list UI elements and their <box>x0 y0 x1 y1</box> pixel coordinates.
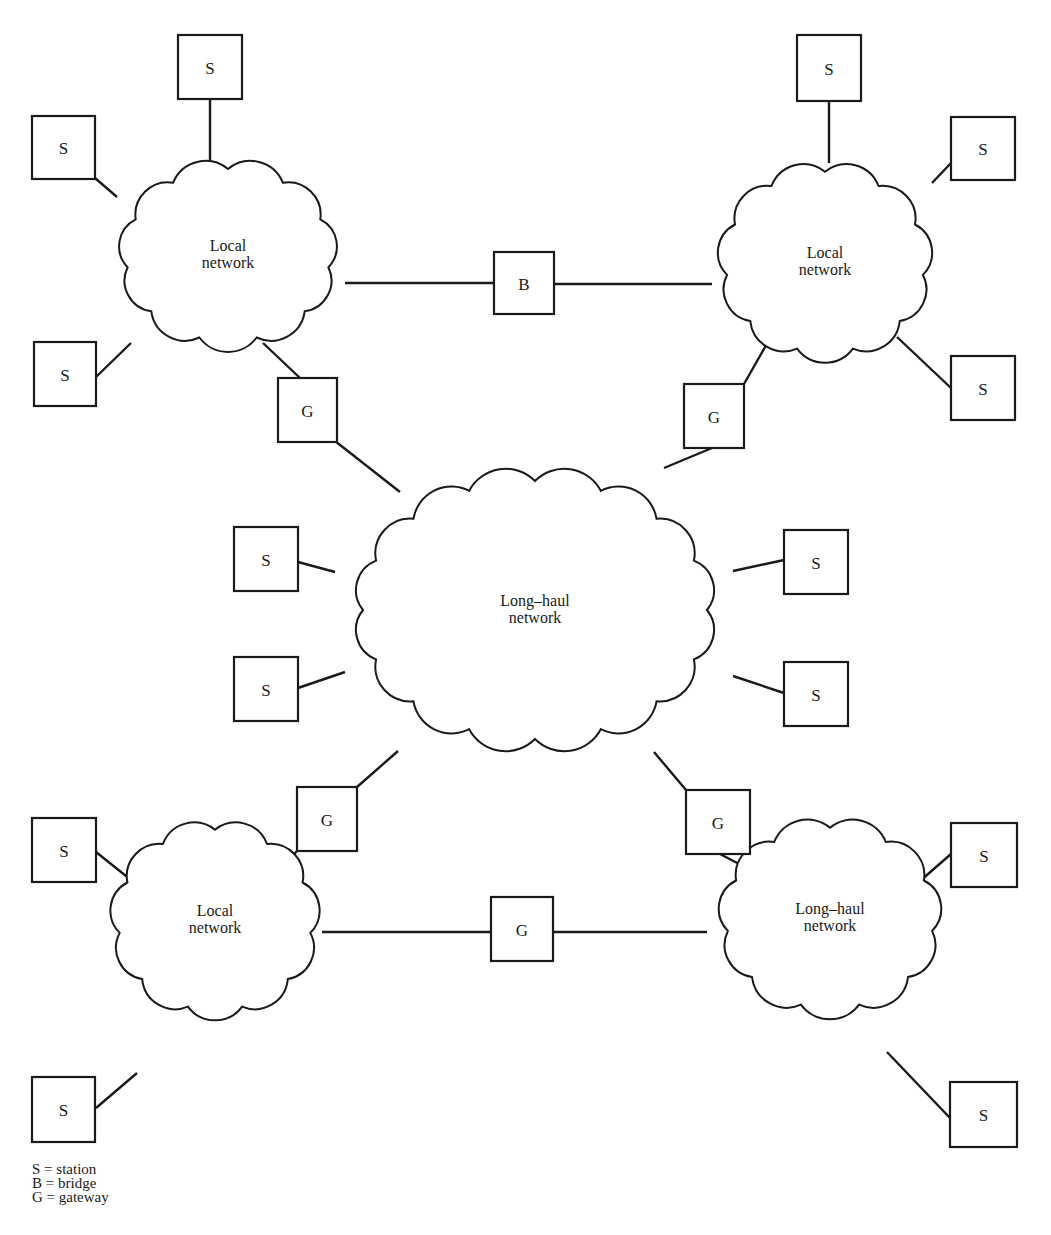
cloud-label: network <box>799 261 851 278</box>
gateway-node: G <box>297 787 357 851</box>
connection-line <box>654 752 686 790</box>
cloud-label: Local <box>197 902 234 919</box>
cloud-longhaul-br: Long–haulnetwork <box>719 820 941 1020</box>
connection-line <box>357 751 398 787</box>
connection-line <box>298 562 335 572</box>
node-label: S <box>979 847 988 866</box>
node-label: B <box>518 275 529 294</box>
legend-item-gateway: G = gateway <box>32 1190 109 1204</box>
cloud-local-tl: Localnetwork <box>119 161 337 352</box>
connection-line <box>263 343 300 378</box>
connection-line <box>932 163 951 183</box>
station-node: S <box>784 530 848 594</box>
node-label: S <box>811 686 820 705</box>
connection-line <box>887 1052 950 1118</box>
cloud-local-tr: Localnetwork <box>718 164 932 363</box>
connection-line <box>664 448 712 468</box>
station-node: S <box>784 662 848 726</box>
connection-line <box>335 441 400 492</box>
bridge-node: B <box>494 252 554 314</box>
legend: S = station B = bridge G = gateway <box>32 1162 109 1204</box>
connection-line <box>897 337 951 388</box>
node-label: S <box>60 366 69 385</box>
station-node: S <box>950 1082 1017 1147</box>
station-node: S <box>951 117 1015 180</box>
station-node: S <box>32 116 95 179</box>
cloud-longhaul-center: Long–haulnetwork <box>356 469 714 751</box>
gateway-node: G <box>684 384 744 448</box>
cloud-label: Long–haul <box>795 900 865 918</box>
cloud-label: network <box>804 917 856 934</box>
node-label: G <box>321 811 333 830</box>
node-label: G <box>712 814 724 833</box>
station-node: S <box>234 527 298 591</box>
station-node: S <box>951 823 1017 887</box>
network-diagram: LocalnetworkLocalnetworkLong–haulnetwork… <box>0 0 1051 1235</box>
node-label: S <box>59 139 68 158</box>
node-label: S <box>979 1106 988 1125</box>
cloud-label: network <box>202 254 254 271</box>
legend-item-station: S = station <box>32 1162 109 1176</box>
legend-item-bridge: B = bridge <box>32 1176 109 1190</box>
station-node: S <box>32 818 96 882</box>
node-label: S <box>205 59 214 78</box>
node-label: G <box>708 408 720 427</box>
station-node: S <box>178 35 242 99</box>
connection-line <box>733 676 784 693</box>
station-node: S <box>32 1077 95 1142</box>
gateway-node: G <box>491 897 553 961</box>
station-node: S <box>797 35 861 101</box>
connection-line <box>95 178 117 197</box>
cloud-label: network <box>189 919 241 936</box>
node-label: S <box>978 380 987 399</box>
connection-line <box>298 672 345 688</box>
connection-line <box>96 343 131 377</box>
connection-line <box>733 560 784 571</box>
station-node: S <box>234 657 298 721</box>
node-label: S <box>59 1101 68 1120</box>
node-label: S <box>978 140 987 159</box>
cloud-label: Local <box>210 237 247 254</box>
cloud-label: Long–haul <box>500 592 570 610</box>
cloud-label: network <box>509 609 561 626</box>
node-label: S <box>824 60 833 79</box>
station-node: S <box>34 342 96 406</box>
connection-line <box>96 1073 137 1108</box>
node-label: S <box>59 842 68 861</box>
cloud-local-bl: Localnetwork <box>110 822 319 1020</box>
cloud-label: Local <box>807 244 844 261</box>
node-label: G <box>301 402 313 421</box>
station-node: S <box>951 356 1015 420</box>
node-label: G <box>516 921 528 940</box>
gateway-node: G <box>686 790 750 854</box>
gateway-node: G <box>278 378 337 442</box>
node-label: S <box>811 554 820 573</box>
node-label: S <box>261 681 270 700</box>
node-label: S <box>261 551 270 570</box>
